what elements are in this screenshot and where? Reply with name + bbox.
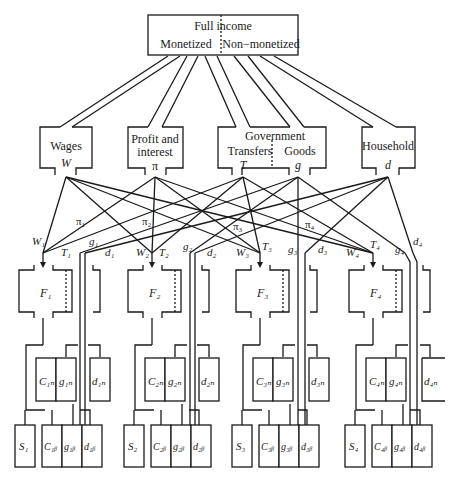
svg-text:Wages: Wages xyxy=(50,139,82,153)
svg-text:F₁: F₁ xyxy=(39,286,52,300)
svg-text:g₃ₙ: g₃ₙ xyxy=(276,375,290,387)
svg-text:d: d xyxy=(385,158,392,172)
full-income-box: Full income Monetized Non−monetized xyxy=(148,15,300,55)
svg-text:Household: Household xyxy=(362,139,414,153)
svg-text:W₂: W₂ xyxy=(136,246,149,258)
svg-text:W: W xyxy=(61,156,72,170)
non-monetized-label: Non−monetized xyxy=(222,37,299,51)
svg-text:d₁ᵦ: d₁ᵦ xyxy=(84,441,95,452)
svg-text:Transfers: Transfers xyxy=(228,144,273,158)
svg-text:F₂: F₂ xyxy=(148,286,161,300)
svg-text:π: π xyxy=(152,159,158,173)
svg-text:interest: interest xyxy=(137,145,173,159)
svg-text:d₂: d₂ xyxy=(207,246,217,258)
svg-text:g₄ᵦ: g₄ᵦ xyxy=(394,441,405,452)
svg-text:g₄ₙ: g₄ₙ xyxy=(389,375,403,387)
svg-text:g₂: g₂ xyxy=(183,240,193,252)
wages-box: Wages W xyxy=(40,127,92,175)
svg-text:T₄: T₄ xyxy=(370,238,380,250)
svg-text:g₂ₙ: g₂ₙ xyxy=(168,375,182,387)
svg-text:S₄: S₄ xyxy=(349,440,359,452)
family-2: F₂ C₂ₙ g₂ₙ d₂ₙ S₂ C₂ᵦ g₂ᵦ d₂ᵦ xyxy=(124,253,219,467)
svg-text:g: g xyxy=(295,158,301,172)
family-4: F₄ C₄ₙ g₄ₙ d₄ₙ S₄ C₄ᵦ g₄ᵦ d₄ᵦ xyxy=(345,253,445,467)
svg-text:g₃: g₃ xyxy=(288,243,298,255)
svg-text:d₄ᵦ: d₄ᵦ xyxy=(414,441,425,452)
svg-text:S₂: S₂ xyxy=(128,440,138,452)
svg-text:C₁ᵦ: C₁ᵦ xyxy=(44,441,57,452)
svg-text:F₃: F₃ xyxy=(256,286,269,300)
svg-text:C₃ₙ: C₃ₙ xyxy=(256,375,272,387)
svg-text:d₄: d₄ xyxy=(413,235,423,247)
svg-text:C₄ₙ: C₄ₙ xyxy=(369,375,385,387)
full-income-flow-diagram: Full income Monetized Non−monetized Wage… xyxy=(0,0,450,481)
svg-text:T₁: T₁ xyxy=(61,246,71,258)
svg-text:π₂: π₂ xyxy=(142,215,152,227)
monetized-label: Monetized xyxy=(160,37,211,51)
svg-text:W₁: W₁ xyxy=(32,235,45,247)
svg-text:C₂ₙ: C₂ₙ xyxy=(148,375,164,387)
svg-text:d₁: d₁ xyxy=(105,246,115,258)
svg-text:g₁ₙ: g₁ₙ xyxy=(59,375,73,387)
svg-text:g₄: g₄ xyxy=(395,243,405,255)
svg-text:C₁ₙ: C₁ₙ xyxy=(39,375,55,387)
svg-text:g₂ᵦ: g₂ᵦ xyxy=(173,441,184,452)
root-to-source-pipes xyxy=(60,56,396,127)
profit-interest-box: Profit and interest π xyxy=(128,127,183,175)
svg-text:d₂ᵦ: d₂ᵦ xyxy=(193,441,204,452)
family-1: F₁ C₁ₙ g₁ₙ d₁ₙ S₁ C₁ᵦ g₁ᵦ d₁ᵦ xyxy=(15,253,110,467)
svg-text:W₃: W₃ xyxy=(236,246,249,258)
svg-text:g₁: g₁ xyxy=(89,235,99,247)
svg-text:π₄: π₄ xyxy=(305,218,315,230)
family-3: F₃ C₃ₙ g₃ₙ d₃ₙ S₃ C₃ᵦ g₃ᵦ d₃ᵦ xyxy=(232,253,329,467)
svg-text:S₃: S₃ xyxy=(236,440,246,452)
svg-text:Government: Government xyxy=(245,129,306,143)
svg-text:d₁ₙ: d₁ₙ xyxy=(92,375,106,387)
svg-text:g₃ᵦ: g₃ᵦ xyxy=(281,441,292,452)
svg-text:Goods: Goods xyxy=(284,144,316,158)
svg-text:C₄ᵦ: C₄ᵦ xyxy=(374,441,387,452)
svg-text:Profit and: Profit and xyxy=(131,132,179,146)
svg-text:T₂: T₂ xyxy=(159,246,169,258)
svg-text:d₂ₙ: d₂ₙ xyxy=(201,375,215,387)
svg-text:d₃ₙ: d₃ₙ xyxy=(311,375,325,387)
svg-text:C₂ᵦ: C₂ᵦ xyxy=(153,441,166,452)
svg-text:d₄ₙ: d₄ₙ xyxy=(424,375,438,387)
svg-text:d₃: d₃ xyxy=(318,243,328,255)
svg-text:π₁: π₁ xyxy=(76,215,86,227)
svg-text:T: T xyxy=(240,158,248,172)
svg-text:W₄: W₄ xyxy=(346,246,359,258)
household-box: Household d xyxy=(362,127,415,175)
svg-text:g₁ᵦ: g₁ᵦ xyxy=(64,441,75,452)
full-income-title: Full income xyxy=(194,19,252,33)
svg-text:F₄: F₄ xyxy=(369,286,382,300)
svg-text:d₃ᵦ: d₃ᵦ xyxy=(301,441,312,452)
government-box: Government Transfers Goods T g xyxy=(218,127,326,175)
svg-text:C₃ᵦ: C₃ᵦ xyxy=(261,441,274,452)
svg-text:T₃: T₃ xyxy=(262,240,272,252)
svg-text:S₁: S₁ xyxy=(19,440,29,452)
svg-text:π₃: π₃ xyxy=(233,220,243,232)
